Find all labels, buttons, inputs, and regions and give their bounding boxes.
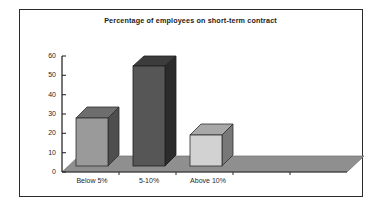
xtick-label-below-5pct: Below 5% — [62, 177, 122, 184]
ytick-label-0: 0 — [34, 168, 56, 175]
xtick-label-above-10pct: Above 10% — [176, 177, 240, 184]
ytick-label-30: 30 — [34, 110, 56, 117]
bar-below-5pct-front — [76, 118, 108, 166]
ytick-label-50: 50 — [34, 71, 56, 78]
ytick-label-20: 20 — [34, 129, 56, 136]
bar-below-5pct-side — [108, 107, 119, 166]
ytick-label-60: 60 — [34, 52, 56, 59]
bar-5-10pct[interactable] — [133, 56, 176, 166]
bar-above-10pct-front — [190, 135, 222, 166]
bar-5-10pct-side — [165, 56, 176, 166]
bar-5-10pct-front — [133, 66, 165, 166]
bar-above-10pct[interactable] — [190, 124, 233, 166]
ytick-label-10: 10 — [34, 149, 56, 156]
xtick-label-5-10pct: 5-10% — [124, 177, 174, 184]
chart-figure: Percentage of employees on short-term co… — [0, 0, 381, 210]
ytick-label-40: 40 — [34, 91, 56, 98]
bar-below-5pct[interactable] — [76, 107, 119, 166]
